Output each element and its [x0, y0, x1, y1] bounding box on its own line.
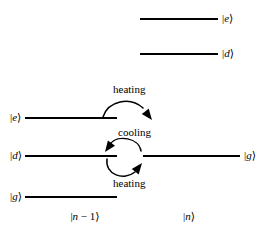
- arrowhead-cooling: [105, 141, 115, 152]
- process-arcs-group: [103, 101, 152, 176]
- process-arc-heating-lower: [107, 159, 135, 176]
- process-arc-cooling: [110, 138, 141, 151]
- process-arc-heating-upper: [103, 101, 143, 117]
- level-ket-label-left-d: |d⟩: [10, 150, 22, 161]
- column-label-n-minus-1: |n − 1⟩: [70, 211, 99, 222]
- level-ket-label-right-d: |d⟩: [222, 48, 234, 59]
- arrowhead-heating-upper: [142, 109, 152, 120]
- diagram-canvas: [0, 0, 261, 236]
- level-ket-label-right-g: |g⟩: [244, 150, 256, 161]
- column-label-n: |n⟩: [183, 211, 195, 222]
- energy-level-diagram: |e⟩|d⟩|e⟩|d⟩|g⟩|g⟩ heatingcoolingheating…: [0, 0, 261, 236]
- level-ket-label-left-e: |e⟩: [10, 112, 21, 123]
- level-ket-label-left-g: |g⟩: [10, 191, 22, 202]
- level-lines-group: [25, 19, 240, 197]
- level-ket-label-right-e: |e⟩: [222, 13, 233, 24]
- process-label-heating-lower: heating: [113, 178, 145, 189]
- process-label-heating-upper: heating: [113, 84, 145, 95]
- process-label-cooling: cooling: [118, 127, 151, 138]
